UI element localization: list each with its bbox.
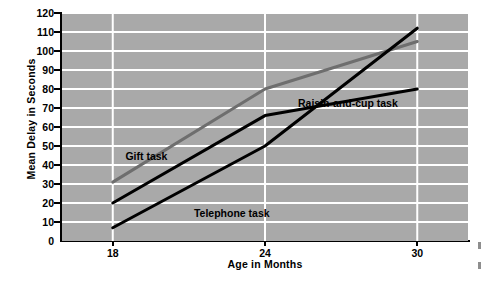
y-tick-label: 60 — [24, 122, 54, 132]
series-label-gift-task: Gift task — [125, 150, 167, 162]
series-label-raisin-and-cup-task: Raisin-and-cup task — [298, 97, 398, 109]
x-axis-title: Age in Months — [62, 258, 468, 270]
series-labels: Gift taskTelephone taskRaisin-and-cup ta… — [62, 13, 468, 241]
y-tick-label: 80 — [24, 84, 54, 94]
y-axis-tick-labels: 0102030405060708090100110120 — [22, 0, 54, 281]
series-label-telephone-task: Telephone task — [194, 207, 270, 219]
x-tick-mark — [416, 241, 418, 246]
y-tick-label: 90 — [24, 65, 54, 75]
x-tick-mark — [112, 241, 114, 246]
page-edge-mark-top — [478, 242, 481, 249]
y-tick-label: 50 — [24, 141, 54, 151]
y-tick-label: 110 — [24, 27, 54, 37]
y-tick-label: 30 — [24, 179, 54, 189]
y-tick-label: 0 — [24, 236, 54, 246]
line-chart-figure: Mean Delay in Seconds 010203040506070809… — [0, 0, 483, 281]
y-tick-label: 120 — [24, 8, 54, 18]
y-tick-label: 70 — [24, 103, 54, 113]
x-tick-mark — [264, 241, 266, 246]
y-tick-label: 10 — [24, 217, 54, 227]
page-edge-mark-bottom — [478, 262, 481, 269]
y-tick-label: 40 — [24, 160, 54, 170]
plot-area: Gift taskTelephone taskRaisin-and-cup ta… — [62, 13, 468, 241]
y-tick-label: 20 — [24, 198, 54, 208]
y-tick-label: 100 — [24, 46, 54, 56]
